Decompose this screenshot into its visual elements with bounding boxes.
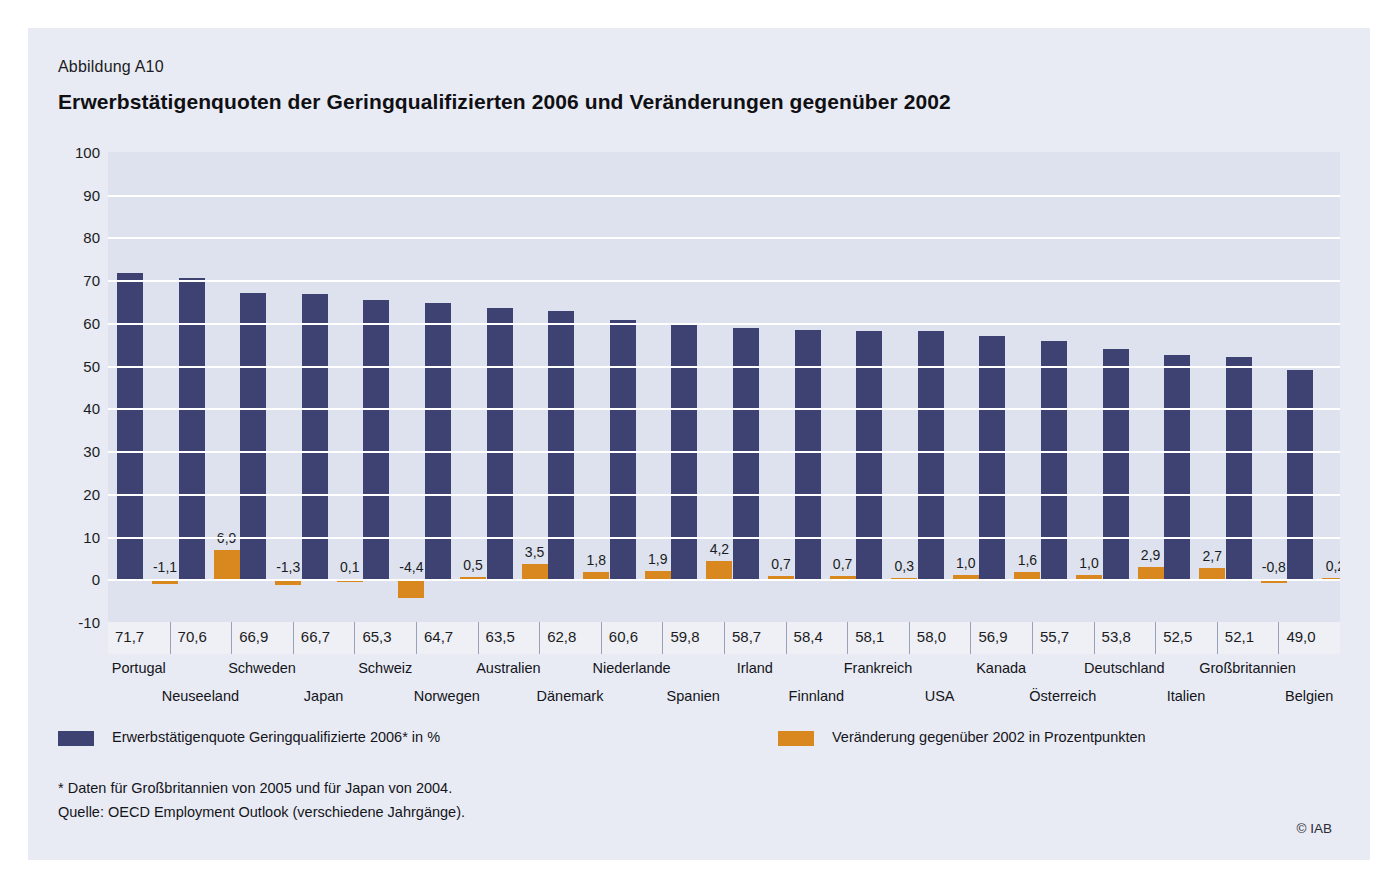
bar-group: 4,2 bbox=[662, 152, 724, 622]
bar-group: 1,0 bbox=[909, 152, 971, 622]
value-label: 66,9 bbox=[239, 628, 268, 645]
value-cell: 70,6 bbox=[170, 622, 232, 654]
y-axis-tick-label: 50 bbox=[58, 357, 100, 374]
bar-employment-rate bbox=[1041, 341, 1067, 579]
x-axis-category-label: Österreich bbox=[995, 688, 1131, 704]
value-label: 55,7 bbox=[1040, 628, 1069, 645]
bar-group: -1,3 bbox=[231, 152, 293, 622]
y-axis-tick-label: 20 bbox=[58, 485, 100, 502]
bar-group: 0,2 bbox=[1278, 152, 1340, 622]
value-label: 56,9 bbox=[978, 628, 1007, 645]
value-strip: 71,770,666,966,765,364,763,562,860,659,8… bbox=[108, 622, 1340, 654]
value-cell: 52,5 bbox=[1155, 622, 1217, 654]
x-axis-category-label: Neuseeland bbox=[133, 688, 269, 704]
x-axis-category-label: Niederlande bbox=[564, 660, 700, 676]
bar-group: 0,3 bbox=[847, 152, 909, 622]
copyright-label: © IAB bbox=[1297, 821, 1332, 836]
y-axis-tick-label: 10 bbox=[58, 528, 100, 545]
x-axis-category-label: Schweiz bbox=[317, 660, 453, 676]
footnote-line: * Daten für Großbritannien von 2005 und … bbox=[58, 780, 465, 796]
gridline bbox=[108, 579, 1340, 581]
x-axis-category-label: Australien bbox=[441, 660, 577, 676]
value-label: 71,7 bbox=[115, 628, 144, 645]
value-cell: 60,6 bbox=[601, 622, 663, 654]
gridline bbox=[108, 237, 1340, 239]
bar-group: 0,1 bbox=[293, 152, 355, 622]
y-axis-tick-label: 90 bbox=[58, 186, 100, 203]
x-axis-category-label: Finnland bbox=[749, 688, 885, 704]
bar-group: 2,9 bbox=[1094, 152, 1156, 622]
value-label: 53,8 bbox=[1102, 628, 1131, 645]
value-label: 49,0 bbox=[1286, 628, 1315, 645]
y-axis-tick-label: 40 bbox=[58, 400, 100, 417]
value-label: 62,8 bbox=[547, 628, 576, 645]
value-cell: 65,3 bbox=[354, 622, 416, 654]
x-axis-category-label: USA bbox=[872, 688, 1008, 704]
gridline bbox=[108, 280, 1340, 282]
gridline bbox=[108, 323, 1340, 325]
value-cell: 58,7 bbox=[724, 622, 786, 654]
value-cell: 53,8 bbox=[1094, 622, 1156, 654]
value-cell: 55,7 bbox=[1032, 622, 1094, 654]
value-label: 58,4 bbox=[794, 628, 823, 645]
bar-employment-rate bbox=[1164, 355, 1190, 579]
x-axis-category-label: Frankreich bbox=[810, 660, 946, 676]
x-axis-category-label: Italien bbox=[1118, 688, 1254, 704]
value-cell: 58,4 bbox=[786, 622, 848, 654]
y-axis-tick-label: 60 bbox=[58, 314, 100, 331]
gridline bbox=[108, 537, 1340, 539]
x-axis-category-label: Norwegen bbox=[379, 688, 515, 704]
bar-employment-rate bbox=[918, 331, 944, 579]
bar-group: 1,9 bbox=[601, 152, 663, 622]
x-axis-category-label: Portugal bbox=[71, 660, 207, 676]
y-axis-tick-label: 0 bbox=[58, 571, 100, 588]
figure-number: Abbildung A10 bbox=[58, 58, 164, 76]
x-axis-category-label: Irland bbox=[687, 660, 823, 676]
legend-swatch bbox=[778, 731, 814, 746]
value-cell: 63,5 bbox=[478, 622, 540, 654]
value-cell: 58,1 bbox=[847, 622, 909, 654]
value-cell: 62,8 bbox=[539, 622, 601, 654]
value-cell: 59,8 bbox=[662, 622, 724, 654]
bar-group: -0,8 bbox=[1217, 152, 1279, 622]
value-label: 70,6 bbox=[178, 628, 207, 645]
bar-group: 1,6 bbox=[970, 152, 1032, 622]
value-label: 58,0 bbox=[917, 628, 946, 645]
legend-label: Erwerbstätigenquote Geringqualifizierte … bbox=[112, 729, 440, 745]
plot-area: -1,16,9-1,30,1-4,40,53,51,81,94,20,70,70… bbox=[108, 152, 1340, 622]
bar-employment-rate bbox=[610, 320, 636, 579]
value-label: 59,8 bbox=[670, 628, 699, 645]
y-axis-tick-label: 30 bbox=[58, 443, 100, 460]
x-axis-category-label: Belgien bbox=[1241, 688, 1377, 704]
value-label: 64,7 bbox=[424, 628, 453, 645]
bar-employment-rate bbox=[548, 311, 574, 579]
y-axis-tick-label: 100 bbox=[58, 144, 100, 161]
bar-group: 1,8 bbox=[539, 152, 601, 622]
legend-label: Veränderung gegenüber 2002 in Prozentpun… bbox=[832, 729, 1146, 745]
bar-employment-rate bbox=[1226, 357, 1252, 580]
bar-group: 1,0 bbox=[1032, 152, 1094, 622]
x-axis-category-label: Kanada bbox=[933, 660, 1069, 676]
category-labels: PortugalNeuseelandSchwedenJapanSchweizNo… bbox=[108, 658, 1340, 720]
value-cell: 49,0 bbox=[1278, 622, 1340, 654]
bar-employment-rate bbox=[1287, 370, 1313, 579]
value-label: 66,7 bbox=[301, 628, 330, 645]
bar-employment-rate bbox=[117, 273, 143, 579]
x-axis-category-label: Spanien bbox=[625, 688, 761, 704]
footnote-line: Quelle: OECD Employment Outlook (verschi… bbox=[58, 804, 465, 820]
bar-employment-rate bbox=[856, 331, 882, 579]
bar-group: 3,5 bbox=[478, 152, 540, 622]
value-cell: 52,1 bbox=[1217, 622, 1279, 654]
value-label: 63,5 bbox=[486, 628, 515, 645]
value-cell: 58,0 bbox=[909, 622, 971, 654]
x-axis-category-label: Deutschland bbox=[1057, 660, 1193, 676]
gridline bbox=[108, 366, 1340, 368]
value-cell: 71,7 bbox=[108, 622, 170, 654]
gridline bbox=[108, 494, 1340, 496]
bar-employment-rate bbox=[979, 336, 1005, 579]
bar-change-label: 0,2 bbox=[1308, 558, 1340, 574]
bars-group: -1,16,9-1,30,1-4,40,53,51,81,94,20,70,70… bbox=[108, 152, 1340, 622]
value-cell: 66,9 bbox=[231, 622, 293, 654]
value-cell: 64,7 bbox=[416, 622, 478, 654]
bar-group: 6,9 bbox=[170, 152, 232, 622]
